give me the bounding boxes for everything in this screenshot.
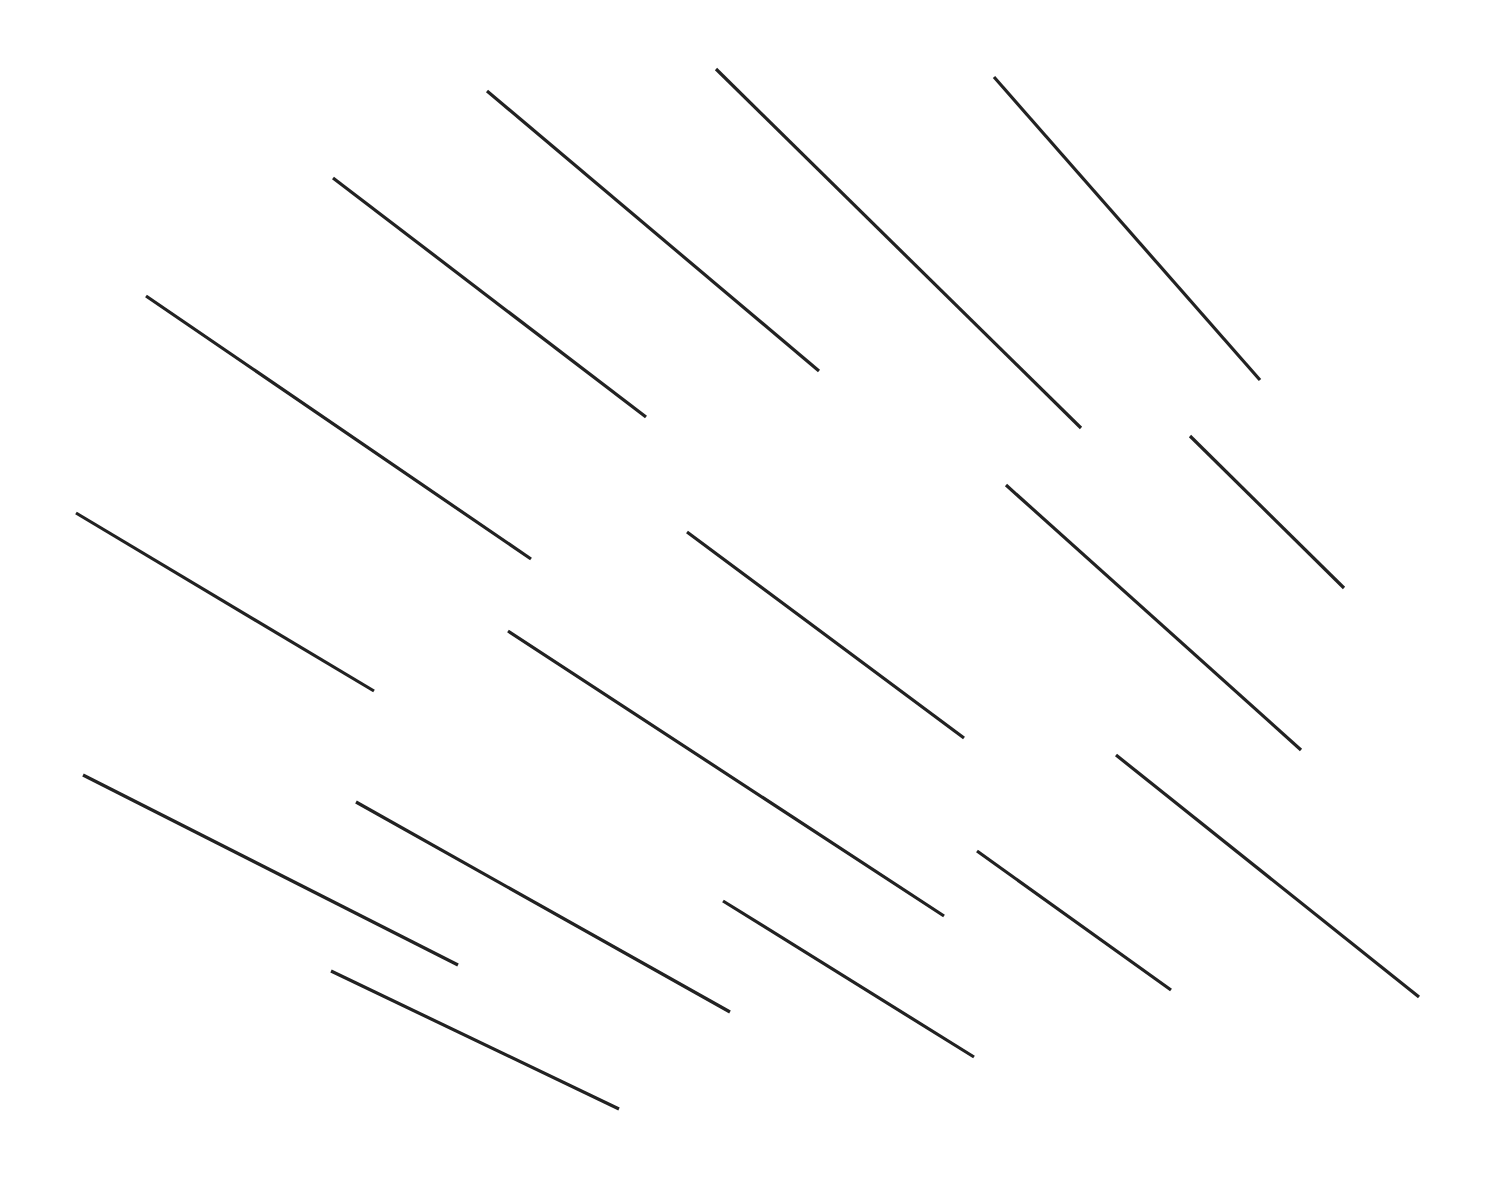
line-segment — [146, 296, 531, 559]
line-segment — [331, 971, 619, 1109]
line-segment — [1190, 436, 1344, 588]
line-segment — [723, 901, 974, 1057]
line-segments-group — [76, 69, 1419, 1109]
line-segment — [76, 513, 374, 691]
line-segment — [994, 77, 1260, 380]
line-segment — [333, 178, 646, 417]
line-segment — [1116, 755, 1419, 997]
line-segments-canvas — [0, 0, 1489, 1188]
line-segment — [83, 775, 458, 965]
line-segment — [716, 69, 1081, 428]
line-segment — [356, 802, 730, 1012]
line-segment — [687, 532, 964, 738]
line-segment — [977, 851, 1171, 990]
line-segment — [487, 91, 819, 371]
line-segment — [1006, 485, 1301, 750]
